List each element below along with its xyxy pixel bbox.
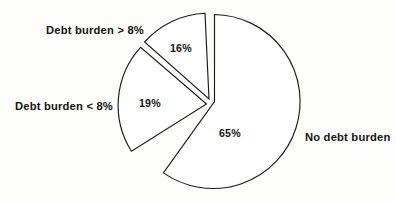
pie-label-no-debt-burden: No debt burden — [305, 131, 390, 143]
pie-value-no-debt-burden: 65% — [219, 127, 241, 139]
pie-label-debt-burden-gt-8: Debt burden > 8% — [46, 24, 144, 36]
pie-value-debt-burden-lt-8: 19% — [139, 97, 161, 109]
pie-value-debt-burden-gt-8: 16% — [170, 42, 192, 54]
pie-chart-figure: Debt burden > 8% Debt burden < 8% No deb… — [0, 0, 396, 202]
pie-label-debt-burden-lt-8: Debt burden < 8% — [15, 100, 113, 112]
